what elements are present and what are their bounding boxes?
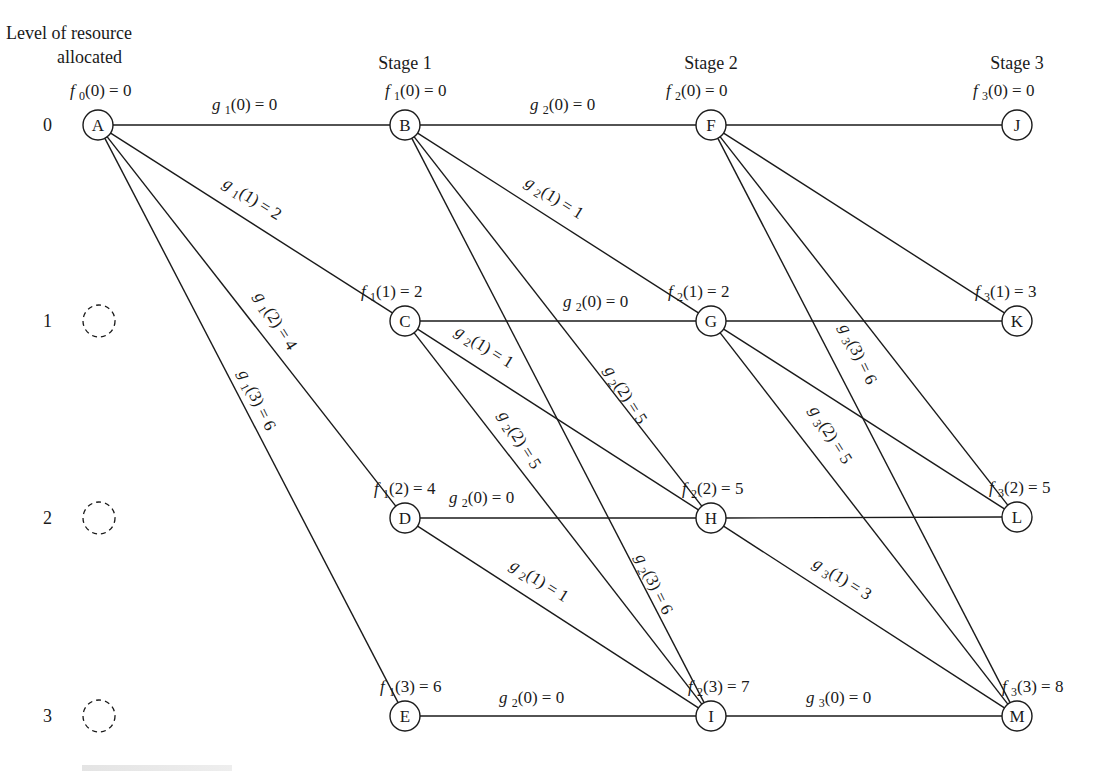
- edge-D-I: [418, 526, 699, 708]
- node-J: J: [1002, 110, 1032, 140]
- level-label-3: 3: [43, 706, 52, 726]
- stage-3-header: Stage 3: [990, 53, 1044, 73]
- ghost-nodes: [83, 305, 115, 732]
- node-F: F: [696, 110, 726, 140]
- node-I: I: [696, 701, 726, 731]
- node-letter: A: [92, 116, 105, 135]
- node-K: K: [1002, 306, 1032, 336]
- node-value-labels: f 0(0) = 0f 1(0) = 0f 1(1) = 2f 1(2) = 4…: [70, 81, 1063, 699]
- node-value-L: f 3(2) = 5: [989, 478, 1050, 500]
- edge-A-C: [111, 133, 393, 313]
- node-M: M: [1002, 701, 1032, 731]
- node-L: L: [1002, 502, 1032, 532]
- edge-label-D-I: g 2(1) = 1: [505, 555, 572, 608]
- edge-label-B-I: g 2(3) = 6: [629, 550, 677, 618]
- node-letter: B: [399, 116, 410, 135]
- node-letter: I: [708, 707, 714, 726]
- node-value-I: f 2(3) = 7: [688, 677, 750, 699]
- node-value-D: f 1(2) = 4: [374, 479, 436, 501]
- edge-B-G: [418, 133, 699, 313]
- level-label-2: 2: [43, 508, 52, 528]
- node-value-C: f 1(1) = 2: [361, 282, 422, 304]
- node-letter: J: [1014, 116, 1021, 135]
- node-value-J: f 3(0) = 0: [973, 81, 1034, 103]
- node-letter: D: [399, 509, 411, 528]
- node-letter: H: [705, 509, 717, 528]
- edge-labels: g 1(0) = 0g 1(1) = 2g 1(2) = 4g 1(3) = 6…: [212, 95, 881, 710]
- edges: [105, 125, 1010, 716]
- node-B: B: [390, 110, 420, 140]
- node-letter: L: [1012, 508, 1022, 527]
- stage-1-header: Stage 1: [378, 53, 432, 73]
- header: Level of resource allocated Stage 1 Stag…: [6, 23, 1044, 73]
- node-letter: E: [400, 707, 410, 726]
- edge-label-C-H: g 2(1) = 1: [450, 321, 517, 374]
- level-axis-title-line2: allocated: [57, 47, 122, 67]
- node-value-H: f 2(2) = 5: [682, 479, 743, 501]
- edge-label-H-M: g 3(1) = 3: [808, 553, 875, 606]
- node-value-E: f 1(3) = 6: [380, 677, 441, 699]
- node-D: D: [390, 503, 420, 533]
- node-letter: F: [706, 116, 715, 135]
- node-value-K: f 3(1) = 3: [975, 282, 1036, 304]
- empty-state-node-1: [83, 305, 115, 337]
- edge-label-F-M: g 3(3) = 6: [833, 320, 881, 388]
- empty-state-node-3: [83, 700, 115, 732]
- edge-label-C-G: g 2(0) = 0: [563, 292, 628, 314]
- node-value-A: f 0(0) = 0: [70, 81, 131, 103]
- level-axis-title-line1: Level of resource: [6, 23, 132, 43]
- edge-label-A-D: g 1(2) = 4: [248, 288, 301, 355]
- edge-label-A-B: g 1(0) = 0: [212, 95, 277, 117]
- node-E: E: [390, 701, 420, 731]
- stage-2-header: Stage 2: [684, 53, 738, 73]
- dynamic-programming-network-diagram: Level of resource allocated Stage 1 Stag…: [0, 0, 1113, 774]
- edge-label-A-C: g 1(1) = 2: [218, 173, 285, 226]
- edge-label-B-G: g 2(1) = 1: [520, 172, 587, 225]
- node-value-G: f 2(1) = 2: [668, 282, 729, 304]
- node-letter: C: [399, 312, 410, 331]
- cropped-figure-caption: [82, 765, 232, 771]
- node-A: A: [83, 110, 113, 140]
- edge-label-B-F: g 2(0) = 0: [530, 95, 595, 117]
- edge-label-G-M: g 3(2) = 5: [803, 402, 856, 469]
- node-value-M: f 3(3) = 8: [1002, 677, 1063, 699]
- node-G: G: [696, 306, 726, 336]
- edge-label-I-M: g 3(0) = 0: [806, 688, 871, 710]
- edge-H-M: [724, 526, 1005, 708]
- level-labels: 0 1 2 3: [43, 115, 52, 726]
- node-C: C: [390, 306, 420, 336]
- node-letter: M: [1009, 707, 1024, 726]
- level-label-0: 0: [43, 115, 52, 135]
- node-value-F: f 2(0) = 0: [666, 81, 727, 103]
- edge-label-D-H: g 2(0) = 0: [449, 488, 514, 510]
- edge-C-H: [418, 329, 699, 510]
- edge-label-A-E: g 1(3) = 6: [232, 366, 280, 434]
- edge-F-K: [724, 133, 1005, 313]
- edge-label-C-I: g 2(2) = 5: [492, 407, 545, 474]
- node-letter: K: [1011, 312, 1024, 331]
- node-value-B: f 1(0) = 0: [385, 81, 446, 103]
- node-H: H: [696, 503, 726, 533]
- empty-state-node-2: [83, 502, 115, 534]
- node-letter: G: [705, 312, 717, 331]
- edge-label-B-H: g 2(2) = 5: [598, 362, 651, 429]
- edge-H-L: [726, 517, 1002, 518]
- edge-label-E-I: g 2(0) = 0: [499, 688, 564, 710]
- level-label-1: 1: [43, 311, 52, 331]
